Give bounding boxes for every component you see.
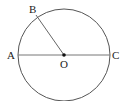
center-point-o — [62, 53, 66, 57]
radius-bo — [36, 15, 64, 55]
label-o: O — [60, 58, 68, 70]
label-c: C — [112, 49, 119, 61]
label-b: B — [29, 3, 36, 15]
label-a: A — [7, 49, 15, 61]
circle-diagram: B A C O — [0, 0, 125, 101]
